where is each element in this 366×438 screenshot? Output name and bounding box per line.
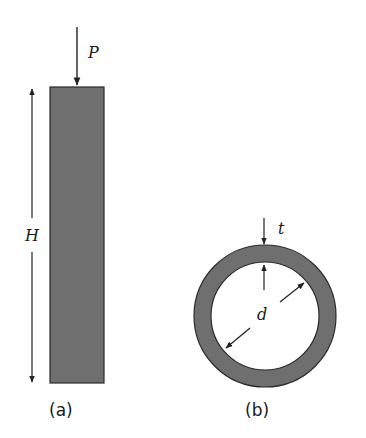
height-label: H <box>24 226 40 245</box>
column <box>50 87 104 383</box>
diagram-canvas: P H (a) t d (b) <box>0 0 366 438</box>
diameter-label: d <box>257 305 267 324</box>
caption-a: (a) <box>49 400 73 420</box>
load-label: P <box>87 43 99 62</box>
thickness-label: t <box>278 219 285 238</box>
panel-b: t d (b) <box>194 218 336 420</box>
caption-b: (b) <box>245 400 269 420</box>
panel-a: P H (a) <box>24 27 104 420</box>
